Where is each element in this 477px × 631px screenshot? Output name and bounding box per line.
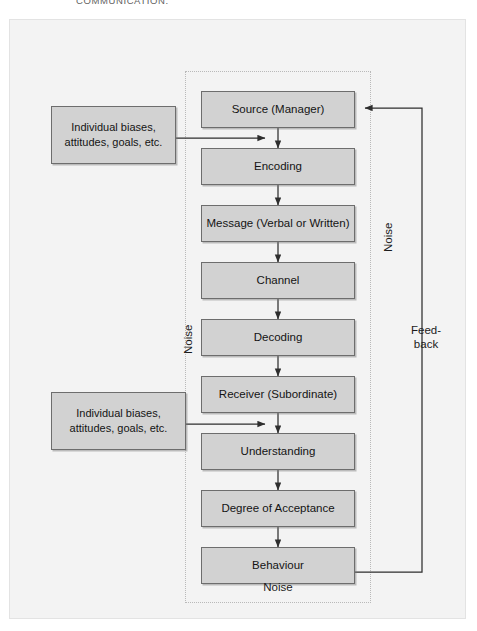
node-encoding[interactable]: Encoding bbox=[201, 148, 355, 185]
node-behaviour[interactable]: Behaviour bbox=[201, 547, 355, 584]
figure-plate: Source (Manager) Encoding Message (Verba… bbox=[9, 19, 466, 619]
node-receiver[interactable]: Receiver (Subordinate) bbox=[201, 376, 355, 413]
node-degree-of-acceptance[interactable]: Degree of Acceptance bbox=[201, 490, 355, 527]
label-feedback: Feed- back bbox=[406, 324, 446, 352]
label-feedback-line1: Feed- bbox=[406, 324, 446, 338]
label-noise-left: Noise bbox=[182, 325, 194, 354]
figure-caption: COMMUNICATION. bbox=[76, 0, 169, 8]
figure-root: COMMUNICATION. bbox=[0, 0, 477, 631]
node-understanding[interactable]: Understanding bbox=[201, 433, 355, 470]
node-decoding[interactable]: Decoding bbox=[201, 319, 355, 356]
label-feedback-line2: back bbox=[406, 338, 446, 352]
sidenote-top[interactable]: Individual biases, attitudes, goals, etc… bbox=[51, 106, 176, 164]
node-message[interactable]: Message (Verbal or Written) bbox=[201, 205, 355, 242]
label-noise-bottom: Noise bbox=[185, 581, 371, 593]
node-source[interactable]: Source (Manager) bbox=[201, 91, 355, 128]
label-noise-right: Noise bbox=[382, 223, 394, 252]
node-channel[interactable]: Channel bbox=[201, 262, 355, 299]
sidenote-bottom[interactable]: Individual biases, attitudes, goals, etc… bbox=[51, 392, 186, 450]
